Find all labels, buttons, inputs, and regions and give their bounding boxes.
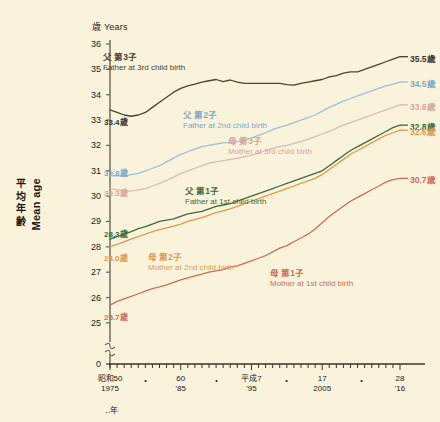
start-value-label-0: 33.4歳 [104,116,128,127]
x-axis-tick-label: 28'16 [374,374,426,394]
series-label-0: 父 第3子Father at 3rd child birth [103,52,185,73]
series-label-jp: 母 第3子 [228,136,312,147]
series-label-4: 母 第2子Mother at 2nd child birth [148,252,234,273]
series-label-2: 母 第3子Mother at 3rd child birth [228,136,312,157]
y-axis-tick-label: 34 [77,90,101,100]
end-value-label-1: 34.5歳 [410,77,436,89]
y-axis-title-jp-char: 平 [14,178,27,191]
series-label-en: Father at 1st child birth [185,197,266,208]
right-value-leaders [400,57,408,179]
series-label-en: Mother at 3rd child birth [228,147,312,158]
end-value-label-4: 32.6歳 [410,125,436,137]
x-axis-interval-dot: ・ [210,374,222,387]
x-tick-year: 2005 [296,384,348,394]
x-axis-tick-label: 60'85 [155,374,207,394]
y-axis-title-jp-char: 均 [14,191,27,204]
y-axis-title-jp-char: 齢 [14,216,27,229]
y-axis-tick-label: 0 [77,359,101,369]
chart-page: 歳 Years 平 均 年 齢 Mean age 363534333231302… [0,0,440,422]
y-axis-tick-label: 26 [77,293,101,303]
series-label-jp: 父 第2子 [183,110,267,121]
y-axis-tick-label: 31 [77,166,101,176]
series-label-jp: 母 第1子 [270,268,353,279]
series-label-en: Mother at 2nd child birth [148,263,234,274]
start-value-label-4: 28.0歳 [104,252,128,263]
y-axis-tick-label: 29 [77,216,101,226]
end-value-label-0: 35.5歳 [410,52,436,64]
start-value-label-1: 30.8歳 [104,167,128,178]
start-value-label-2: 30.3歳 [104,187,128,198]
x-tick-year: 1975 [84,384,136,394]
x-axis-interval-dot: ・ [355,374,367,387]
series-label-en: Mother at 1st child birth [270,279,353,290]
series-label-3: 父 第1子Father at 1st child birth [185,186,266,207]
y-axis-tick-label: 33 [77,115,101,125]
series-label-en: Father at 3rd child birth [103,63,185,74]
series-label-jp: 母 第2子 [148,252,234,263]
x-tick-era: 28 [374,374,426,384]
end-value-label-5: 30.7歳 [410,173,436,185]
x-axis-ticks [110,364,400,370]
y-axis-unit-label: 歳 Years [92,20,128,33]
end-value-label-2: 33.6歳 [410,100,436,112]
series-label-1: 父 第2子Father at 2nd child birth [183,110,267,131]
x-tick-era: 17 [296,374,348,384]
series-label-5: 母 第1子Mother at 1st child birth [270,268,353,289]
y-axis-title-en: Mean age [30,178,42,231]
x-axis-unit-label: ‥年 [105,404,118,415]
x-tick-year: '85 [155,384,207,394]
x-tick-year: '16 [374,384,426,394]
y-axis-tick-label: 32 [77,140,101,150]
x-tick-year: '95 [225,384,277,394]
series-label-en: Father at 2nd child birth [183,121,267,132]
series-label-jp: 父 第3子 [103,52,185,63]
y-axis-tick-label: 35 [77,64,101,74]
x-tick-era: 60 [155,374,207,384]
series-label-jp: 父 第1子 [185,186,266,197]
x-axis-tick-label: 172005 [296,374,348,394]
y-axis-tick-label: 36 [77,39,101,49]
start-value-label-5: 25.7歳 [104,311,128,322]
y-axis-title: 平 均 年 齢 Mean age [14,178,74,231]
y-axis-tick-label: 28 [77,242,101,252]
y-axis-tick-label: 27 [77,267,101,277]
x-tick-era: 平成7 [225,374,277,384]
x-tick-era: 昭和50 [84,374,136,384]
x-axis-tick-label: 平成7'95 [225,374,277,394]
y-axis-title-jp: 平 均 年 齢 [14,178,27,228]
x-axis-interval-dot: ・ [139,374,151,387]
x-axis-tick-label: 昭和501975 [84,374,136,394]
y-axis-tick-label: 25 [77,318,101,328]
y-axis-tick-label: 30 [77,191,101,201]
y-axis-title-jp-char: 年 [14,203,27,216]
x-axis-interval-dot: ・ [281,374,293,387]
start-value-label-3: 28.3歳 [104,228,128,239]
